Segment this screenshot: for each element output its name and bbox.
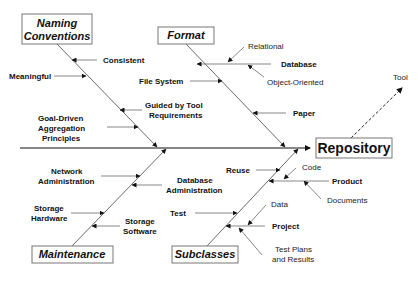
cause-test: Test <box>170 209 186 218</box>
svg-text:Format: Format <box>167 29 206 41</box>
cause-code: Code <box>302 163 322 172</box>
cause-testplans-line1: Test Plans <box>275 245 312 254</box>
category-naming-conventions: Naming Conventions <box>22 14 92 44</box>
bone-format <box>186 44 285 147</box>
category-subclasses: Subclasses <box>172 246 238 263</box>
cause-goal-line1: Goal-Driven <box>38 114 83 123</box>
effect-repository: Repository <box>316 138 392 158</box>
cause-testplans-line2: and Results <box>272 255 314 264</box>
cause-goal-line3: Principles <box>42 134 81 143</box>
cause-consistent: Consistent <box>103 56 145 65</box>
bone-subclasses <box>207 149 298 246</box>
tool-label: Tool <box>393 73 408 82</box>
cause-storage-hw-line1: Storage <box>34 204 64 213</box>
svg-text:Conventions: Conventions <box>24 30 91 42</box>
cause-dbadmin-line2: Administration <box>166 186 223 195</box>
svg-text:Naming: Naming <box>37 17 78 29</box>
cause-documents: Documents <box>327 196 367 205</box>
cause-dbadmin-line1: Database <box>177 176 213 185</box>
category-format: Format <box>158 27 214 44</box>
cause-guided-line1: Guided by Tool <box>145 101 203 110</box>
tool-arrow <box>351 88 402 138</box>
cause-guided-line2: Requirements <box>149 111 203 120</box>
cause-storage-hw-line2: Hardware <box>31 214 68 223</box>
svg-text:Maintenance: Maintenance <box>39 248 106 260</box>
category-maintenance: Maintenance <box>32 246 113 263</box>
cause-reuse: Reuse <box>226 166 251 175</box>
cause-object-oriented: Object-Oriented <box>267 78 323 87</box>
cause-product: Product <box>332 177 363 186</box>
cause-relational: Relational <box>248 42 284 51</box>
cause-database: Database <box>281 60 317 69</box>
cause-data: Data <box>271 200 288 209</box>
svg-text:Subclasses: Subclasses <box>175 248 236 260</box>
fishbone-diagram: Tool Consistent Meaningful Guided by Too… <box>0 0 418 283</box>
cause-project: Project <box>272 222 299 231</box>
cause-paper: Paper <box>293 109 315 118</box>
cause-file-system: File System <box>139 77 183 86</box>
cause-storage-sw-line1: Storage <box>125 217 155 226</box>
svg-text:Repository: Repository <box>317 140 390 156</box>
cause-storage-sw-line2: Software <box>123 227 157 236</box>
cause-network-line1: Network <box>51 167 83 176</box>
cause-network-line2: Administration <box>38 177 95 186</box>
cause-meaningful: Meaningful <box>9 72 51 81</box>
cause-goal-line2: Aggregation <box>38 124 85 133</box>
